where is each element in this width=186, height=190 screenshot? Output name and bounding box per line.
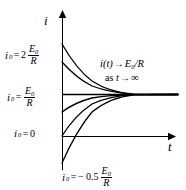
curve-label-i0-2e0r-sub: 0 bbox=[9, 54, 12, 61]
limit-annotation-limit-sub: 0 bbox=[131, 63, 134, 70]
curve-label-i0-2e0r-eq: = bbox=[13, 50, 20, 60]
curve-label-i0-zero-sub: 0 bbox=[18, 132, 21, 139]
curve-label-i0-neg-denominator: R bbox=[103, 177, 109, 188]
right-arrow-icon: → bbox=[113, 58, 125, 69]
curve-label-i0-2e0r-coef: 2 bbox=[21, 50, 26, 60]
right-arrow-icon: → bbox=[119, 72, 131, 83]
curve-label-i0-e0r-fraction: E0 R bbox=[24, 86, 35, 108]
curve-label-i0-e0r-var: i bbox=[7, 92, 10, 103]
limit-annotation-line2: as t→∞ bbox=[100, 71, 144, 85]
curve-label-i0-e0r-denominator: R bbox=[27, 97, 33, 108]
infinity-icon: ∞ bbox=[131, 71, 139, 83]
rl-circuit-current-plot: i t i0 = 2 E0 R i0 = E0 R i0 bbox=[0, 0, 186, 190]
limit-annotation-limit-rest: /R bbox=[135, 58, 144, 69]
curve-label-i0-neg-sub: 0 bbox=[66, 176, 69, 183]
curve-label-i0-2e0r-fraction: E0 R bbox=[28, 44, 39, 66]
limit-annotation-function: i(t) bbox=[100, 58, 113, 69]
curve-label-i0-zero: i0 = 0 bbox=[14, 128, 35, 139]
curve-label-i0-neg-numerator-sub: 0 bbox=[108, 170, 111, 177]
axis-label-i: i bbox=[44, 14, 48, 27]
curve-label-i0-neg-numerator: E bbox=[102, 165, 108, 176]
curve-label-i0-neg-fraction: E0 R bbox=[101, 166, 112, 188]
limit-annotation: i(t)→E0/R as t→∞ bbox=[100, 57, 144, 84]
curve-label-i0-e0r-numerator-sub: 0 bbox=[31, 90, 34, 97]
curve-label-i0-neg-eq: = bbox=[70, 172, 77, 182]
limit-annotation-line1: i(t)→E0/R bbox=[100, 57, 144, 71]
limit-annotation-as: as bbox=[105, 72, 113, 83]
curve-label-i0-zero-var: i bbox=[14, 128, 17, 139]
curve-label-i0-2e0r-numerator-sub: 0 bbox=[35, 48, 38, 55]
curve-label-i0-e0r-sub: 0 bbox=[11, 96, 14, 103]
curve-label-i0-e0r: i0 = E0 R bbox=[7, 86, 36, 108]
curve-label-i0-zero-value: 0 bbox=[30, 129, 35, 139]
curve-label-i0-2e0r: i0 = 2 E0 R bbox=[5, 44, 40, 66]
curve-label-i0-neg-coef: − 0.5 bbox=[78, 172, 99, 182]
axis-label-t: t bbox=[168, 140, 172, 153]
curve-label-i0-e0r-eq: = bbox=[15, 92, 22, 102]
curve-label-i0-2e0r-denominator: R bbox=[31, 55, 37, 66]
curve-label-i0-zero-eq: = bbox=[22, 129, 29, 139]
curve-i0-neg-0p5e0r bbox=[62, 95, 178, 164]
curve-label-i0-2e0r-var: i bbox=[5, 50, 8, 61]
t-axis bbox=[62, 133, 176, 140]
i-axis bbox=[59, 10, 66, 170]
curve-label-i0-neg-var: i bbox=[62, 172, 65, 183]
curve-label-i0-neg: i0 = − 0.5 E0 R bbox=[62, 166, 113, 188]
